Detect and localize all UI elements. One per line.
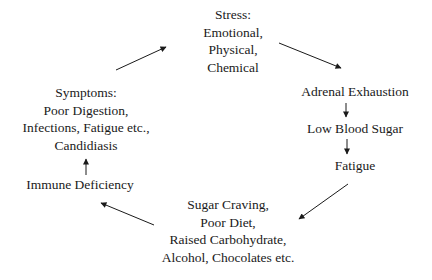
arrow-symptoms-to-stress — [116, 47, 166, 70]
arrow-sugarcraving-to-immune — [101, 203, 154, 225]
arrows-layer — [0, 0, 432, 280]
arrow-fatigue-to-sugarcraving — [299, 184, 348, 219]
arrow-stress-to-adrenal — [279, 43, 341, 68]
